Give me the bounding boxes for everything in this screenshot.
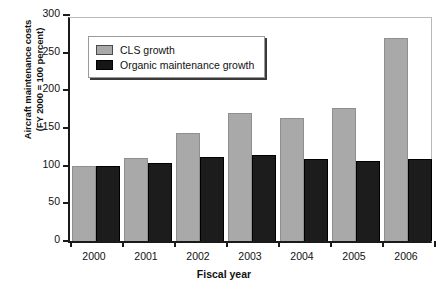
y-axis-tick-label: 150 [42, 120, 60, 132]
y-axis-tick-label: 200 [42, 82, 60, 94]
bar-2005-organic-maintenance-growth [356, 161, 380, 241]
x-axis-tick-mark [278, 241, 280, 247]
x-axis-tick-label: 2000 [64, 250, 124, 262]
bar-2002-cls-growth [176, 133, 200, 241]
x-axis-tick-mark [382, 241, 384, 247]
bar-2003-cls-growth [228, 113, 252, 241]
y-axis-tick-mark [63, 14, 70, 16]
y-axis-tick-mark [63, 127, 70, 129]
bar-2002-organic-maintenance-growth [200, 157, 224, 241]
legend-swatch-icon-cls-growth [96, 45, 113, 55]
legend-label-cls-growth: CLS growth [120, 44, 175, 56]
y-axis-tick-mark [63, 89, 70, 91]
bar-2004-organic-maintenance-growth [304, 159, 328, 241]
bar-group [280, 18, 328, 241]
bar-2000-organic-maintenance-growth [96, 166, 120, 241]
y-axis-tick-label: 300 [42, 7, 60, 19]
bar-2000-cls-growth [72, 166, 96, 241]
bar-2001-cls-growth [124, 158, 148, 241]
x-axis-tick-mark [434, 241, 436, 247]
y-axis-tick-label: 0 [54, 233, 60, 245]
y-axis-tick-mark [63, 202, 70, 204]
x-axis-tick-mark [70, 241, 72, 247]
x-axis-tick-label: 2004 [272, 250, 332, 262]
x-axis-tick-label: 2005 [324, 250, 384, 262]
legend-item-organic-maintenance-growth: Organic maintenance growth [96, 57, 254, 72]
bar-chart: Aircraft maintenance costs (FY 2000 = 10… [0, 0, 448, 291]
bar-group [332, 18, 380, 241]
bar-2006-cls-growth [384, 38, 408, 241]
y-axis-tick-mark [63, 240, 70, 242]
x-axis-tick-mark [226, 241, 228, 247]
legend-swatch-icon-organic-maintenance-growth [96, 60, 113, 70]
x-axis-tick-mark [174, 241, 176, 247]
x-axis-tick-mark [330, 241, 332, 247]
y-axis-tick-mark [63, 52, 70, 54]
x-axis-tick-mark [122, 241, 124, 247]
legend-item-cls-growth: CLS growth [96, 42, 254, 57]
bar-2003-organic-maintenance-growth [252, 155, 276, 241]
y-axis-tick-label: 50 [48, 195, 60, 207]
x-axis-tick-label: 2002 [168, 250, 228, 262]
y-axis-title-line-1: Aircraft maintenance costs [22, 0, 34, 175]
y-axis-title: Aircraft maintenance costs (FY 2000 = 10… [22, 0, 45, 175]
chart-legend: CLS growth Organic maintenance growth [88, 36, 265, 78]
y-axis-tick-label: 100 [42, 158, 60, 170]
x-axis-tick-label: 2006 [376, 250, 436, 262]
bar-2004-cls-growth [280, 118, 304, 241]
x-axis-title: Fiscal year [0, 268, 448, 280]
x-axis-tick-label: 2003 [220, 250, 280, 262]
bar-2005-cls-growth [332, 108, 356, 241]
bar-group [384, 18, 432, 241]
bar-2001-organic-maintenance-growth [148, 163, 172, 241]
y-axis-tick-label: 250 [42, 45, 60, 57]
y-axis-tick-mark [63, 165, 70, 167]
legend-label-organic-maintenance-growth: Organic maintenance growth [120, 59, 254, 71]
bar-2006-organic-maintenance-growth [408, 159, 432, 241]
x-axis-tick-label: 2001 [116, 250, 176, 262]
